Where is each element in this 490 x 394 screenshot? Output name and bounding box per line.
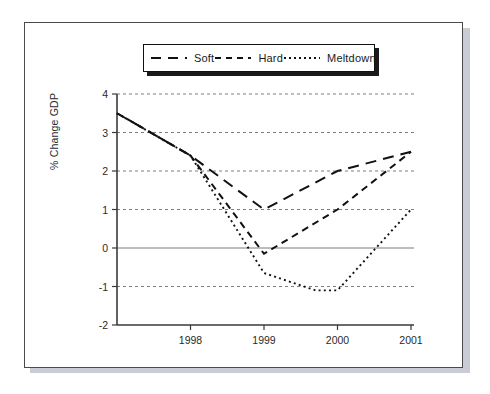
svg-text:-2: -2 <box>99 319 108 331</box>
legend-label-soft: Soft <box>194 52 214 64</box>
svg-text:0: 0 <box>102 242 108 254</box>
gridlines <box>117 94 414 287</box>
svg-text:2001: 2001 <box>399 334 423 346</box>
svg-text:4: 4 <box>102 88 108 100</box>
chart-legend: Soft Hard Meltdown <box>143 44 375 72</box>
svg-text:1999: 1999 <box>252 334 276 346</box>
svg-text:-1: -1 <box>99 281 108 293</box>
svg-text:1: 1 <box>102 204 108 216</box>
svg-text:1998: 1998 <box>179 334 203 346</box>
axis-tick-labels: -2-1012341998199920002001 <box>99 88 423 346</box>
legend-swatch-hard-icon <box>214 53 252 63</box>
figure-root: -2-1012341998199920002001 % Change GDP S… <box>0 0 490 394</box>
axis-ticks <box>112 94 411 330</box>
svg-text:2000: 2000 <box>326 334 350 346</box>
legend-swatch-soft-icon <box>150 53 188 63</box>
svg-text:2: 2 <box>102 165 108 177</box>
legend-label-hard: Hard <box>258 52 283 64</box>
series-lines <box>117 113 411 290</box>
y-axis-title: % Change GDP <box>48 156 60 170</box>
legend-item-hard: Hard <box>214 52 283 64</box>
legend-swatch-meltdown-icon <box>283 53 321 63</box>
legend-item-meltdown: Meltdown <box>283 52 376 64</box>
legend-item-soft: Soft <box>150 52 214 64</box>
svg-text:3: 3 <box>102 127 108 139</box>
legend-label-meltdown: Meltdown <box>327 52 376 64</box>
